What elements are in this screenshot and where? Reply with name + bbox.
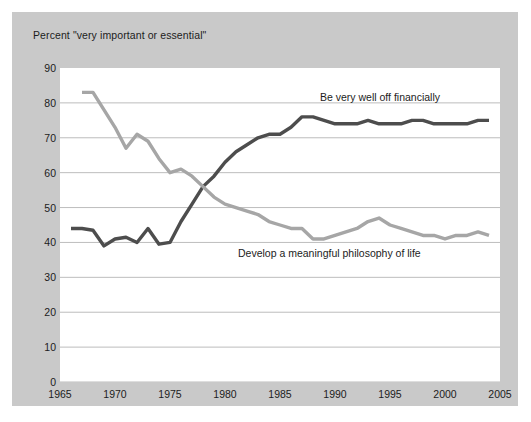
x-tick-label: 1995 — [378, 388, 401, 400]
chart-figure: Percent "very important or essential" 01… — [12, 12, 518, 406]
x-tick-label: 1970 — [103, 388, 126, 400]
x-tick-label: 1980 — [213, 388, 236, 400]
x-tick-label: 1990 — [323, 388, 346, 400]
axis-title: Percent "very important or essential" — [33, 29, 206, 41]
y-tick-label: 20 — [30, 306, 56, 318]
y-tick-label: 70 — [30, 132, 56, 144]
y-tick-label: 0 — [30, 376, 56, 388]
x-tick-label: 1975 — [158, 388, 181, 400]
y-tick-label: 90 — [30, 62, 56, 74]
y-tick-label: 50 — [30, 202, 56, 214]
series-label-philosophy: Develop a meaningful philosophy of life — [238, 247, 421, 259]
y-tick-label: 30 — [30, 271, 56, 283]
x-axis-ticks: 196519701975198019851990199520002005 — [60, 388, 500, 404]
plot-svg — [60, 68, 500, 382]
plot-area — [60, 68, 500, 382]
y-tick-label: 10 — [30, 341, 56, 353]
y-tick-label: 80 — [30, 97, 56, 109]
y-axis-ticks: 0102030405060708090 — [22, 68, 56, 382]
x-tick-label: 1985 — [268, 388, 291, 400]
y-tick-label: 40 — [30, 236, 56, 248]
x-tick-label: 1965 — [48, 388, 71, 400]
y-tick-label: 60 — [30, 167, 56, 179]
x-tick-label: 2000 — [433, 388, 456, 400]
x-tick-label: 2005 — [488, 388, 511, 400]
series-line-philosophy — [82, 92, 489, 239]
series-label-financial: Be very well off financially — [320, 91, 440, 103]
